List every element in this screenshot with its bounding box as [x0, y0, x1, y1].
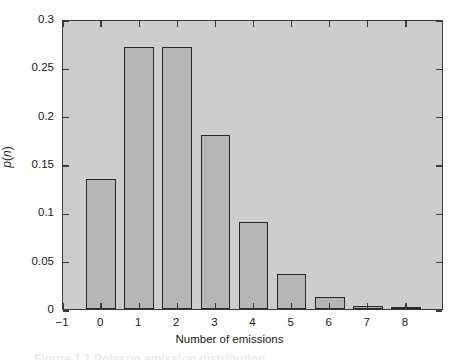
x-axis-tick-top [405, 21, 406, 27]
x-axis-tick-top [291, 21, 292, 27]
y-axis-tick-right [436, 214, 442, 215]
x-axis-tick-top [367, 21, 368, 27]
bar [201, 135, 231, 309]
caption-remnant: Figure 1.1 Poisson emission distribution [34, 352, 364, 360]
x-axis-tick [215, 303, 216, 309]
y-axis-tick-label: 0.2 [0, 111, 54, 123]
y-axis-tick-right [436, 69, 442, 70]
y-axis-tick-label: 0.1 [0, 207, 54, 219]
x-axis-title: Number of emissions [0, 333, 459, 345]
x-axis-tick-label: 2 [156, 317, 196, 329]
y-axis-tick-right [436, 117, 442, 118]
bar [162, 47, 192, 309]
y-axis-tick-label: 0.15 [0, 159, 54, 171]
x-axis-tick-label: −1 [42, 317, 82, 329]
x-axis-tick [100, 303, 101, 309]
x-axis-tick-label: 6 [309, 317, 349, 329]
y-axis-tick-right [436, 165, 442, 166]
x-axis-tick [367, 303, 368, 309]
y-axis-tick-label: 0.25 [0, 62, 54, 74]
x-axis-tick-label: 4 [233, 317, 273, 329]
bar [124, 47, 154, 309]
x-axis-tick-label: 7 [347, 317, 387, 329]
x-axis-tick-top [100, 21, 101, 27]
y-axis-tick-right [436, 310, 442, 311]
y-axis-tick-label: 0.3 [0, 14, 54, 26]
x-axis-tick-top [215, 21, 216, 27]
x-axis-tick-label: 1 [118, 317, 158, 329]
y-axis-tick-right [436, 20, 442, 21]
figure-canvas: p(n) 00.050.10.150.20.250.3−1012345678 N… [0, 0, 459, 362]
x-axis-tick [62, 303, 63, 309]
x-axis-tick [329, 303, 330, 309]
y-axis-tick [63, 310, 69, 311]
x-axis-tick-label: 5 [271, 317, 311, 329]
y-axis-tick [63, 165, 69, 166]
x-axis-tick-top [62, 21, 63, 27]
x-axis-tick [139, 303, 140, 309]
y-axis-tick-right [436, 262, 442, 263]
plot-area [62, 20, 443, 310]
x-axis-tick-label: 8 [385, 317, 425, 329]
y-axis-tick [63, 20, 69, 21]
y-axis-tick-label: 0.05 [0, 256, 54, 268]
x-axis-tick-label: 0 [80, 317, 120, 329]
x-axis-tick [253, 303, 254, 309]
bar [239, 222, 269, 309]
x-axis-tick [405, 303, 406, 309]
x-axis-tick-label: 3 [194, 317, 234, 329]
y-axis-tick [63, 214, 69, 215]
x-axis-tick [291, 303, 292, 309]
y-axis-tick [63, 69, 69, 70]
y-axis-tick [63, 262, 69, 263]
bars-layer [63, 21, 442, 309]
bar [86, 179, 116, 310]
x-axis-tick-top [253, 21, 254, 27]
y-axis-tick-label: 0 [0, 304, 54, 316]
x-axis-tick-top [177, 21, 178, 27]
x-axis-tick-top [139, 21, 140, 27]
x-axis-tick [177, 303, 178, 309]
y-axis-tick [63, 117, 69, 118]
x-axis-tick-top [329, 21, 330, 27]
